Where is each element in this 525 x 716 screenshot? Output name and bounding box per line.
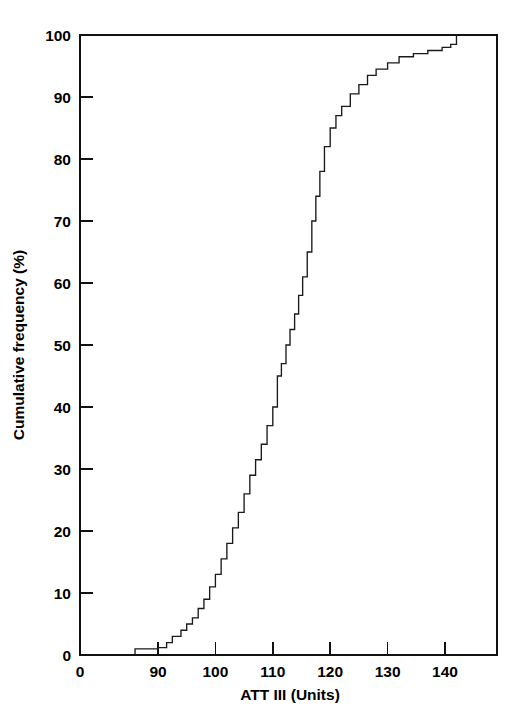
y-tick-label: 20 [54,523,71,540]
y-tick-label: 0 [62,647,71,664]
y-axis-ticks [80,97,93,593]
y-axis-title: Cumulative frequency (%) [10,250,27,440]
y-tick-label: 60 [54,275,71,292]
cumulative-frequency-chart: 0102030405060708090100 09010011012013014… [0,0,525,716]
x-tick-label: 90 [149,663,166,680]
y-tick-label: 30 [54,461,71,478]
x-tick-label: 130 [375,663,401,680]
y-tick-label: 70 [54,213,71,230]
cumulative-step-curve [135,35,456,655]
chart-figure: 0102030405060708090100 09010011012013014… [0,0,525,716]
y-tick-label: 80 [54,151,71,168]
x-tick-label: 140 [432,663,458,680]
x-axis-ticks [158,642,445,655]
y-tick-label: 100 [45,27,71,44]
x-axis-tick-labels: 090100110120130140 [76,663,458,680]
y-axis-tick-labels: 0102030405060708090100 [45,27,71,664]
x-axis-title: ATT III (Units) [240,686,340,703]
y-tick-label: 50 [54,337,71,354]
x-tick-label: 0 [76,663,85,680]
y-tick-label: 40 [54,399,71,416]
x-tick-label: 120 [317,663,343,680]
y-tick-label: 90 [54,89,71,106]
x-tick-label: 110 [260,663,285,680]
y-tick-label: 10 [54,585,71,602]
x-tick-label: 100 [202,663,228,680]
